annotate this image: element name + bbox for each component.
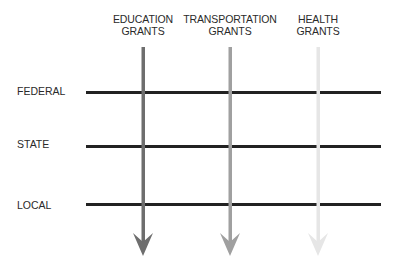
education-arrow-icon <box>133 47 153 256</box>
arrows <box>0 0 394 268</box>
health-arrow-icon <box>308 47 328 256</box>
transportation-arrow-icon <box>220 47 240 256</box>
